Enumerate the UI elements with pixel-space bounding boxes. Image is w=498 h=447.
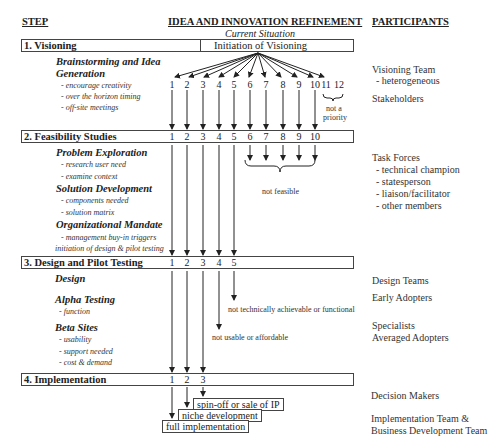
subsection-title: Brainstorming and Idea: [56, 56, 160, 67]
not-technically-achievable-note: not technically achievable or functional: [228, 305, 355, 314]
subsection-title: Design: [55, 273, 85, 284]
participant-task-forces-item: - technical champion: [376, 164, 460, 175]
idea-number: 2: [180, 257, 194, 269]
participant-implementation-team: Implementation Team &: [371, 413, 469, 424]
participant-stakeholders: Stakeholders: [372, 93, 424, 104]
idea-number: 7: [259, 79, 273, 91]
outcome-full-implementation: full implementation: [162, 420, 249, 433]
idea-number: 2: [180, 131, 194, 143]
idea-number: 3: [196, 257, 210, 269]
participant-task-forces-item: - liaison/facilitator: [376, 188, 450, 199]
subsection-item: - research user need: [61, 160, 126, 169]
idea-number: 11: [319, 79, 333, 91]
idea-number: 3: [196, 131, 210, 143]
idea-number: 7: [259, 131, 273, 143]
idea-number: 5: [227, 131, 241, 143]
participant-task-forces: Task Forces: [372, 152, 420, 163]
subsection-item: - support needed: [59, 347, 113, 356]
idea-number: 5: [227, 257, 241, 269]
step-label: 3. Design and Pilot Testing: [24, 257, 143, 269]
idea-number: 6: [243, 131, 257, 143]
idea-number: 1: [165, 374, 179, 386]
subsection-item: - management buy-in triggers: [61, 233, 156, 242]
participant-specialists: Specialists: [372, 320, 415, 331]
idea-number: 10: [308, 131, 322, 143]
step-label: 2. Feasibility Studies: [24, 131, 116, 143]
not-usable-note: not usable or affordable: [212, 333, 288, 342]
subsection-item: - components needed: [61, 196, 129, 205]
subsection-item: - off-site meetings: [61, 103, 118, 112]
idea-number: 8: [276, 131, 290, 143]
idea-number: 3: [196, 79, 210, 91]
subsection-title: Organizational Mandate: [56, 219, 162, 230]
idea-number: 9: [292, 79, 306, 91]
subsection-title: Alpha Testing: [55, 294, 115, 305]
subsection-title: Solution Development: [56, 183, 152, 194]
subsection-title: Problem Exploration: [56, 147, 147, 158]
participant-design-teams: Design Teams: [372, 275, 429, 286]
participant-task-forces-item: - statesperson: [376, 176, 431, 187]
participant-business-development-team: Business Development Team: [371, 425, 487, 436]
idea-number: 9: [292, 131, 306, 143]
idea-number: 2: [180, 79, 194, 91]
initiation-label: Initiation of Visioning: [214, 39, 307, 52]
subsection-item: - over the horizon timing: [61, 92, 141, 101]
idea-number: 1: [165, 257, 179, 269]
idea-number: 1: [165, 79, 179, 91]
participant-task-forces-item: - other members: [376, 200, 442, 211]
subsection-item: initiation of design & pilot testing: [55, 244, 164, 253]
subsection-item: - cost & demand: [59, 358, 112, 367]
subsection-item: - examine context: [61, 172, 117, 181]
participant-decision-makers: Decision Makers: [371, 390, 439, 401]
idea-number: 1: [165, 131, 179, 143]
idea-number: 6: [243, 79, 257, 91]
subsection-item: - solution matrix: [61, 208, 114, 217]
idea-number: 2: [180, 374, 194, 386]
not-priority-note: priority: [323, 113, 347, 122]
idea-number: 8: [276, 79, 290, 91]
idea-number: 4: [212, 257, 226, 269]
idea-number: 4: [212, 79, 226, 91]
idea-number: 5: [227, 79, 241, 91]
step-label: 1. Visioning: [24, 40, 77, 52]
not-feasible-note: not feasible: [262, 187, 299, 196]
not-priority-note: not a: [326, 104, 342, 113]
subsection-item: - function: [59, 307, 90, 316]
participant-averaged-adopters: Averaged Adopters: [372, 332, 449, 343]
idea-number: 3: [196, 374, 210, 386]
subsection-item: - usability: [59, 335, 91, 344]
subsection-title: Beta Sites: [55, 322, 98, 333]
subsection-title: Generation: [56, 68, 105, 79]
participant-visioning-team: Visioning Team: [372, 64, 435, 75]
subsection-item: - encourage creativity: [61, 81, 131, 90]
idea-number: 12: [332, 79, 346, 91]
participant-visioning-team-sub: - heterogeneous: [376, 75, 440, 86]
idea-number: 4: [212, 131, 226, 143]
participant-early-adopters: Early Adopters: [372, 292, 432, 303]
step-label: 4. Implementation: [24, 374, 106, 386]
